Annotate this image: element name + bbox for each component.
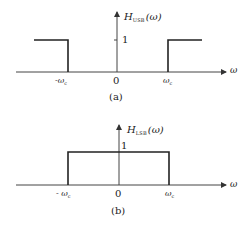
ylabel-a-arg: (ω) <box>146 11 162 22</box>
usb-left-band <box>34 40 68 72</box>
neg-cutoff-a: -ωc <box>55 77 67 86</box>
neg-cutoff-b: - ωc <box>56 190 71 199</box>
caption-a: (a) <box>109 92 123 102</box>
ylabel-b-arg: (ω) <box>148 124 164 135</box>
ylabel-b-sub: LSB <box>136 130 147 136</box>
usb-right-band <box>168 40 202 72</box>
xlabel-b: ω <box>230 180 237 189</box>
pos-cutoff-a-sub: c <box>170 80 173 86</box>
neg-cutoff-b-sub: c <box>68 193 71 199</box>
ylabel-a-sub: USB <box>133 17 145 23</box>
pos-cutoff-b-sub: c <box>172 193 175 199</box>
figure-a-axes <box>16 12 226 72</box>
figure-b-axes <box>16 125 226 185</box>
origin-label-b: 0 <box>115 189 121 199</box>
ylabel-a: HUSB (ω) <box>124 12 162 23</box>
neg-cutoff-a-sub: c <box>64 80 67 86</box>
figure-a-response <box>34 40 202 72</box>
xlabel-a: ω <box>230 66 237 75</box>
level-label-a: 1 <box>122 35 128 45</box>
pos-cutoff-b: ωc <box>165 190 175 199</box>
level-label-b: 1 <box>121 141 127 151</box>
neg-cutoff-b-text: - ω <box>56 189 68 198</box>
ylabel-a-main: H <box>124 11 133 22</box>
ylabel-b-main: H <box>127 124 136 135</box>
origin-label-a: 0 <box>113 76 119 86</box>
ylabel-b: HLSB (ω) <box>127 125 164 136</box>
caption-b: (b) <box>111 206 125 216</box>
neg-cutoff-a-text: -ω <box>55 76 64 85</box>
pos-cutoff-a: ωc <box>163 77 173 86</box>
